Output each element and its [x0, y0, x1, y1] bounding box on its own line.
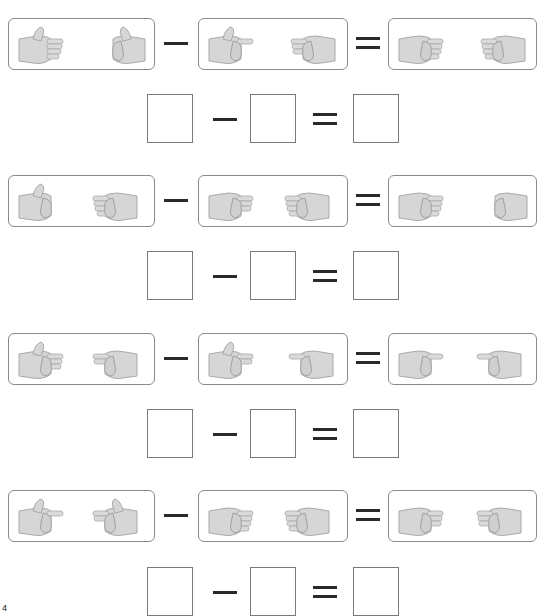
equals-sign: [313, 270, 337, 282]
minus-sign: [164, 199, 188, 202]
corner-mark: 4: [2, 603, 7, 613]
answer-box-result[interactable]: [353, 94, 399, 143]
hand-pointing-thumb-up-icon: [17, 497, 67, 537]
minuend-hands-group: [8, 175, 155, 227]
hand-thumb-up-flat-icon: [17, 25, 67, 65]
hand-one-finger-pointing-icon: [285, 340, 335, 380]
hand-three-fingers-icon: [473, 497, 523, 537]
hand-four-fingers-icon: [281, 182, 331, 222]
hand-four-fingers-icon: [397, 25, 447, 65]
minus-sign: [213, 433, 237, 436]
result-hands-group: [388, 175, 537, 227]
result-hands-group: [388, 490, 537, 542]
minuend-hands-group: [8, 333, 155, 385]
result-hands-group: [388, 333, 537, 385]
hand-four-fingers-icon: [477, 25, 527, 65]
hand-four-fingers-icon: [207, 497, 257, 537]
equals-sign: [313, 586, 337, 598]
hand-one-finger-pointing-icon: [473, 340, 523, 380]
answer-box-result[interactable]: [353, 567, 399, 616]
answer-box-subtrahend[interactable]: [250, 567, 296, 616]
hand-three-fingers-icon: [207, 182, 257, 222]
hand-thumb-up-two-fingers-icon: [207, 340, 257, 380]
hand-three-fingers-icon: [397, 497, 447, 537]
equals-sign: [356, 509, 380, 521]
minuend-hands-group: [8, 18, 155, 70]
answer-box-subtrahend[interactable]: [250, 409, 296, 458]
hand-fist-icon: [479, 182, 529, 222]
answer-box-minuend[interactable]: [147, 251, 193, 300]
hand-one-finger-pointing-icon: [397, 340, 447, 380]
answer-box-subtrahend[interactable]: [250, 94, 296, 143]
hand-pointing-thumb-up-icon: [207, 25, 257, 65]
minus-sign: [213, 275, 237, 278]
subtrahend-hands-group: [198, 490, 348, 542]
equals-sign: [313, 428, 337, 440]
minus-sign: [164, 514, 188, 517]
hand-four-fingers-icon: [397, 182, 447, 222]
equals-sign: [313, 113, 337, 125]
result-hands-group: [388, 18, 537, 70]
equals-sign: [356, 194, 380, 206]
answer-box-result[interactable]: [353, 251, 399, 300]
hand-thumbs-up-fist-icon: [97, 25, 147, 65]
subtrahend-hands-group: [198, 333, 348, 385]
minus-sign: [164, 357, 188, 360]
hand-three-fingers-icon: [287, 25, 337, 65]
minus-sign: [213, 591, 237, 594]
equals-sign: [356, 37, 380, 49]
hand-thumbs-up-fist-icon: [17, 182, 67, 222]
minus-sign: [164, 42, 188, 45]
answer-box-minuend[interactable]: [147, 409, 193, 458]
hand-thumb-up-two-fingers-icon: [89, 497, 139, 537]
hand-two-fingers-icon: [89, 340, 139, 380]
answer-box-minuend[interactable]: [147, 94, 193, 143]
subtrahend-hands-group: [198, 18, 348, 70]
hand-four-fingers-icon: [281, 497, 331, 537]
minus-sign: [213, 118, 237, 121]
subtrahend-hands-group: [198, 175, 348, 227]
minuend-hands-group: [8, 490, 155, 542]
hand-four-fingers-icon: [89, 182, 139, 222]
answer-box-result[interactable]: [353, 409, 399, 458]
answer-box-subtrahend[interactable]: [250, 251, 296, 300]
equals-sign: [356, 352, 380, 364]
hand-thumb-up-three-fingers-icon: [17, 340, 67, 380]
answer-box-minuend[interactable]: [147, 567, 193, 616]
